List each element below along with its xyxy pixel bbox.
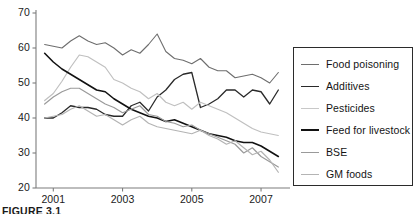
x-axis-tick-label: 2003 bbox=[103, 193, 143, 205]
legend-color-swatch bbox=[301, 108, 319, 109]
y-axis-tick-label: 40 bbox=[4, 111, 30, 123]
legend-item: Pesticides bbox=[294, 97, 412, 119]
legend-item-label: Food poisoning bbox=[326, 58, 399, 70]
figure-container: 2030405060702001200320052007 Food poison… bbox=[0, 0, 418, 214]
y-axis-tick-label: 60 bbox=[4, 41, 30, 53]
legend-item: GM foods bbox=[294, 163, 412, 185]
chart-svg bbox=[0, 0, 292, 200]
legend-color-swatch bbox=[301, 174, 319, 175]
y-axis-tick-label: 20 bbox=[4, 181, 30, 193]
legend-item-label: BSE bbox=[326, 146, 347, 158]
series-line bbox=[45, 34, 279, 83]
x-axis-tick-label: 2005 bbox=[172, 193, 212, 205]
series-line bbox=[45, 106, 279, 173]
series-line bbox=[45, 53, 279, 156]
figure-caption: FIGURE 3.1 bbox=[2, 205, 61, 214]
legend-item-label: GM foods bbox=[326, 168, 372, 180]
x-axis-tick-label: 2007 bbox=[241, 193, 281, 205]
y-axis-tick-label: 50 bbox=[4, 76, 30, 88]
legend-item: Feed for livestock bbox=[294, 119, 412, 141]
legend-item: BSE bbox=[294, 141, 412, 163]
legend-item: Food poisoning bbox=[294, 53, 412, 75]
y-axis-tick-label: 70 bbox=[4, 6, 30, 18]
legend-color-swatch bbox=[301, 64, 319, 65]
legend-item-label: Additives bbox=[326, 80, 370, 92]
chart-plot-area: 2030405060702001200320052007 bbox=[0, 0, 292, 200]
chart-legend: Food poisoningAdditivesPesticidesFeed fo… bbox=[293, 47, 413, 186]
legend-item-label: Feed for livestock bbox=[326, 124, 410, 136]
legend-color-swatch bbox=[301, 129, 319, 131]
series-line bbox=[45, 55, 279, 136]
legend-color-swatch bbox=[301, 86, 319, 87]
y-axis-tick-label: 30 bbox=[4, 146, 30, 158]
legend-item: Additives bbox=[294, 75, 412, 97]
x-axis-tick-label: 2001 bbox=[33, 193, 73, 205]
legend-color-swatch bbox=[301, 152, 319, 153]
legend-item-label: Pesticides bbox=[326, 102, 375, 114]
